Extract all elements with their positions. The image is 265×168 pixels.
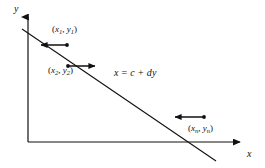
point-2-x-subscript: 2 — [55, 69, 58, 76]
paren-close-1: ) — [74, 24, 77, 34]
point-1-y-subscript: 1 — [71, 28, 74, 35]
point-label-2: (x2, y2) — [48, 66, 73, 75]
point-1-x-subscript: 1 — [59, 28, 62, 35]
y-axis-label: y — [14, 4, 18, 14]
data-point-n — [202, 115, 206, 119]
point-n-x-subscript: n — [195, 127, 198, 134]
paren-close-n: ) — [210, 123, 213, 133]
figure-canvas — [0, 0, 265, 168]
line-fit-figure: y x (x1, y1) (x2, y2) (xn, yn) x = c + d… — [0, 0, 265, 168]
point-label-1: (x1, y1) — [52, 25, 77, 34]
fit-line-equation: x = c + dy — [114, 68, 157, 78]
equation-variable: y — [152, 67, 157, 78]
data-point-1 — [65, 43, 69, 47]
point-label-n: (xn, yn) — [188, 124, 213, 133]
residual-segment-n — [175, 115, 206, 119]
paren-close-2: ) — [70, 65, 73, 75]
residual-segment-1 — [41, 43, 69, 47]
point-2-y-subscript: 2 — [67, 69, 70, 76]
x-axis-label: x — [247, 149, 251, 159]
point-n-y-subscript: n — [207, 127, 210, 134]
fit-line — [22, 29, 216, 161]
